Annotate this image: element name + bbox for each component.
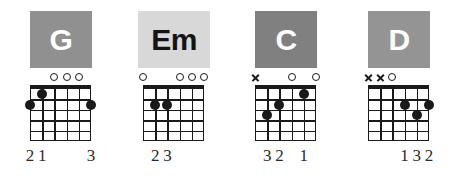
fret-grid	[30, 89, 91, 141]
string-line	[90, 89, 91, 141]
fret-line	[30, 140, 91, 141]
string-line	[292, 89, 293, 141]
string-markers-row	[255, 72, 316, 84]
muted-string-icon	[250, 72, 260, 82]
finger-dot	[424, 100, 434, 110]
fret-line	[30, 131, 91, 132]
chord-name-plate: G	[30, 11, 92, 68]
finger-number: 2	[24, 146, 36, 166]
chord-name-label: Em	[151, 25, 197, 55]
finger-number: 2	[273, 146, 285, 166]
fret-line	[30, 99, 91, 100]
cross-glyph	[251, 73, 260, 82]
chord-name-plate: C	[255, 11, 317, 68]
fretboard	[255, 85, 316, 141]
finger-dot	[86, 100, 96, 110]
string-line	[67, 89, 68, 141]
fret-line	[143, 131, 204, 132]
fretboard	[30, 85, 91, 141]
string-line	[405, 89, 406, 141]
circle-glyph	[200, 73, 208, 81]
string-line	[155, 89, 156, 141]
open-string-icon	[287, 72, 297, 82]
fret-line	[143, 120, 204, 121]
circle-glyph	[188, 73, 196, 81]
circle-glyph	[139, 73, 147, 81]
fret-line	[143, 140, 204, 141]
fret-line	[255, 120, 316, 121]
circle-glyph	[63, 73, 71, 81]
finger-number: 2	[423, 146, 435, 166]
string-line	[255, 89, 256, 141]
string-line	[203, 89, 204, 141]
string-line	[192, 89, 193, 141]
fret-line	[368, 99, 429, 100]
finger-number: 1	[36, 146, 48, 166]
finger-dot	[412, 110, 422, 120]
fret-line	[30, 120, 91, 121]
fret-line	[368, 120, 429, 121]
finger-number: 3	[261, 146, 273, 166]
string-line	[54, 89, 55, 141]
chord-diagram-g: G213	[30, 0, 140, 176]
fret-line	[255, 131, 316, 132]
string-markers-row	[30, 72, 91, 84]
chord-name-label: D	[388, 25, 409, 55]
open-string-icon	[74, 72, 84, 82]
finger-dot	[150, 100, 160, 110]
circle-glyph	[288, 73, 296, 81]
chord-name-label: G	[50, 25, 73, 55]
open-string-icon	[138, 72, 148, 82]
string-line	[279, 89, 280, 141]
finger-number: 1	[298, 146, 310, 166]
circle-glyph	[50, 73, 58, 81]
chord-name-plate: Em	[138, 11, 210, 68]
string-line	[143, 89, 144, 141]
finger-number: 3	[161, 146, 173, 166]
string-line	[79, 89, 80, 141]
chord-name-plate: D	[368, 11, 430, 68]
fret-line	[255, 99, 316, 100]
finger-dot	[25, 100, 35, 110]
cross-glyph	[364, 73, 373, 82]
string-line	[380, 89, 381, 141]
chord-diagram-c: C321	[255, 0, 365, 176]
fret-line	[143, 110, 204, 111]
string-line	[392, 89, 393, 141]
finger-number: 3	[411, 146, 423, 166]
string-markers-row	[143, 72, 204, 84]
string-line	[180, 89, 181, 141]
open-string-icon	[187, 72, 197, 82]
open-string-icon	[62, 72, 72, 82]
finger-dot	[299, 89, 309, 99]
fret-grid	[368, 89, 429, 141]
open-string-icon	[199, 72, 209, 82]
finger-number: 2	[149, 146, 161, 166]
muted-string-icon	[375, 72, 385, 82]
finger-number: 3	[85, 146, 97, 166]
circle-glyph	[312, 73, 320, 81]
finger-numbers-row: 213	[30, 146, 91, 170]
fretboard	[368, 85, 429, 141]
fret-line	[255, 140, 316, 141]
string-line	[167, 89, 168, 141]
circle-glyph	[176, 73, 184, 81]
string-line	[428, 89, 429, 141]
chord-name-label: C	[275, 25, 296, 55]
fret-line	[368, 140, 429, 141]
string-markers-row	[368, 72, 429, 84]
finger-dot	[400, 100, 410, 110]
chord-diagram-em: Em23	[143, 0, 253, 176]
circle-glyph	[388, 73, 396, 81]
finger-dot	[274, 100, 284, 110]
fret-line	[30, 110, 91, 111]
fret-grid	[143, 89, 204, 141]
fretboard	[143, 85, 204, 141]
circle-glyph	[75, 73, 83, 81]
string-line	[315, 89, 316, 141]
finger-numbers-row: 321	[255, 146, 316, 170]
open-string-icon	[387, 72, 397, 82]
fret-line	[368, 131, 429, 132]
muted-string-icon	[363, 72, 373, 82]
chord-diagram-d: D132	[368, 0, 462, 176]
